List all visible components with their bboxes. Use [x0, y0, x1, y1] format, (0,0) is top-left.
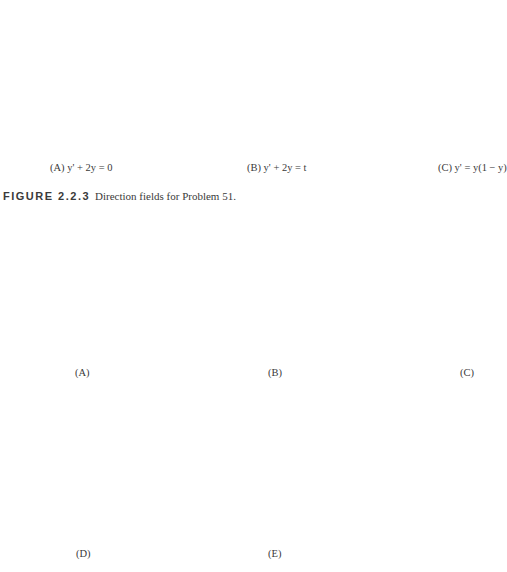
caption-bot-d: (D)	[76, 548, 91, 559]
caption-bot-e: (E)	[268, 548, 281, 559]
direction-field-bot-e	[0, 0, 360, 548]
caption-mid-c: (C)	[460, 367, 474, 378]
